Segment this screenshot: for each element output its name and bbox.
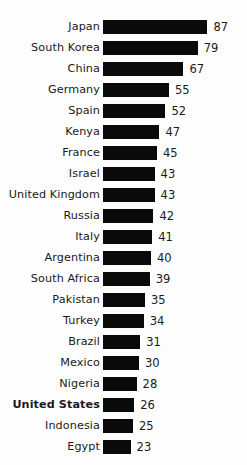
value-label: 31 <box>140 335 161 349</box>
bar-row: China67 <box>0 58 247 79</box>
bar-row: Kenya47 <box>0 121 247 142</box>
bar-and-value: 55 <box>100 83 247 97</box>
bar <box>103 251 151 265</box>
bar <box>103 272 150 286</box>
value-label: 79 <box>198 41 219 55</box>
value-label: 52 <box>165 104 186 118</box>
bar <box>103 188 155 202</box>
bar <box>103 125 159 139</box>
value-label: 55 <box>169 83 190 97</box>
bar-row: Nigeria28 <box>0 373 247 394</box>
bar-row: Indonesia25 <box>0 415 247 436</box>
category-label: Japan <box>0 20 100 34</box>
bar <box>103 377 137 391</box>
bar-and-value: 79 <box>100 41 247 55</box>
bar-and-value: 52 <box>100 104 247 118</box>
bar-row: South Africa39 <box>0 268 247 289</box>
bar-row: United States26 <box>0 394 247 415</box>
bar <box>103 440 131 454</box>
bar-row: Spain52 <box>0 100 247 121</box>
value-label: 45 <box>157 146 178 160</box>
bar-rows-container: Japan87South Korea79China67Germany55Spai… <box>0 16 247 457</box>
bar <box>103 209 153 223</box>
bar-row: Egypt23 <box>0 436 247 457</box>
bar-row: France45 <box>0 142 247 163</box>
bar-row: Russia42 <box>0 205 247 226</box>
bar-row: Pakistan35 <box>0 289 247 310</box>
bar-and-value: 40 <box>100 251 247 265</box>
category-label: Indonesia <box>0 419 100 433</box>
bar <box>103 104 165 118</box>
bar <box>103 83 169 97</box>
bar-and-value: 67 <box>100 62 247 76</box>
category-label: United Kingdom <box>0 188 100 202</box>
bar-chart: Japan87South Korea79China67Germany55Spai… <box>0 0 247 465</box>
bar <box>103 146 157 160</box>
bar <box>103 419 133 433</box>
category-label: France <box>0 146 100 160</box>
bar-row: United Kingdom43 <box>0 184 247 205</box>
bar <box>103 293 145 307</box>
category-label: China <box>0 62 100 76</box>
value-label: 39 <box>150 272 171 286</box>
category-label: Russia <box>0 209 100 223</box>
bar-row: Brazil31 <box>0 331 247 352</box>
bar <box>103 398 134 412</box>
value-label: 87 <box>207 20 228 34</box>
bar-row: Argentina40 <box>0 247 247 268</box>
bar-row: Mexico30 <box>0 352 247 373</box>
bar-and-value: 26 <box>100 398 247 412</box>
category-label: South Korea <box>0 41 100 55</box>
bar-and-value: 41 <box>100 230 247 244</box>
category-label: Nigeria <box>0 377 100 391</box>
bar-and-value: 45 <box>100 146 247 160</box>
value-label: 43 <box>155 167 176 181</box>
value-label: 47 <box>159 125 180 139</box>
value-label: 26 <box>134 398 155 412</box>
bar <box>103 41 198 55</box>
bar-and-value: 35 <box>100 293 247 307</box>
value-label: 34 <box>144 314 165 328</box>
category-label: United States <box>0 398 100 412</box>
bar <box>103 356 139 370</box>
category-label: Pakistan <box>0 293 100 307</box>
bar <box>103 20 207 34</box>
category-label: Spain <box>0 104 100 118</box>
bar <box>103 62 183 76</box>
value-label: 35 <box>145 293 166 307</box>
bar-and-value: 31 <box>100 335 247 349</box>
value-label: 25 <box>133 419 154 433</box>
category-label: Brazil <box>0 335 100 349</box>
bar-and-value: 43 <box>100 167 247 181</box>
category-label: Egypt <box>0 440 100 454</box>
bar <box>103 314 144 328</box>
bar-and-value: 39 <box>100 272 247 286</box>
bar-and-value: 34 <box>100 314 247 328</box>
category-label: Kenya <box>0 125 100 139</box>
bar-row: Israel43 <box>0 163 247 184</box>
category-label: Israel <box>0 167 100 181</box>
bar-row: Turkey34 <box>0 310 247 331</box>
bar-and-value: 23 <box>100 440 247 454</box>
value-label: 67 <box>183 62 204 76</box>
bar-and-value: 47 <box>100 125 247 139</box>
value-label: 40 <box>151 251 172 265</box>
value-label: 42 <box>153 209 174 223</box>
bar <box>103 167 155 181</box>
bar-and-value: 43 <box>100 188 247 202</box>
bar <box>103 230 152 244</box>
bar-row: Italy41 <box>0 226 247 247</box>
value-label: 43 <box>155 188 176 202</box>
category-label: Argentina <box>0 251 100 265</box>
bar-row: Germany55 <box>0 79 247 100</box>
value-label: 30 <box>139 356 160 370</box>
bar-and-value: 42 <box>100 209 247 223</box>
category-label: Turkey <box>0 314 100 328</box>
bar-and-value: 28 <box>100 377 247 391</box>
category-label: Mexico <box>0 356 100 370</box>
bar-and-value: 30 <box>100 356 247 370</box>
value-label: 41 <box>152 230 173 244</box>
category-label: Italy <box>0 230 100 244</box>
value-label: 23 <box>131 440 152 454</box>
bar-and-value: 25 <box>100 419 247 433</box>
